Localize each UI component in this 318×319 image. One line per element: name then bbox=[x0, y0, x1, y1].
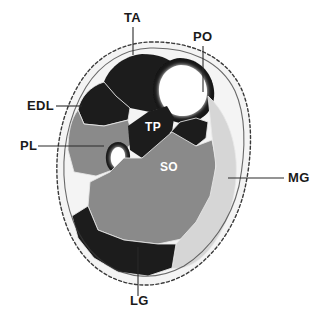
cross-section-canvas: TAPOEDLPLMGLG TPSO bbox=[0, 0, 318, 319]
label-edl: EDL bbox=[27, 98, 54, 113]
leg-cross-section-figure: TAPOEDLPLMGLG TPSO bbox=[0, 0, 318, 319]
label-mg: MG bbox=[288, 170, 310, 185]
label-so: SO bbox=[160, 160, 178, 174]
label-po: PO bbox=[193, 29, 212, 44]
label-tp: TP bbox=[145, 120, 161, 134]
label-pl: PL bbox=[20, 138, 37, 153]
label-lg: LG bbox=[130, 293, 149, 308]
label-ta: TA bbox=[124, 10, 141, 25]
